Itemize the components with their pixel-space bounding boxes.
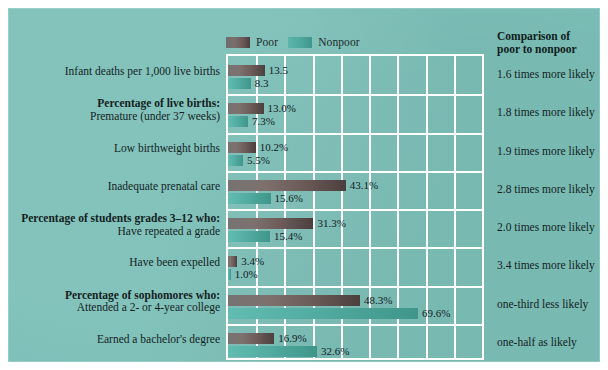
bar-nonpoor [228,78,251,89]
comparison-value: 2.8 times more likely [497,183,608,195]
bar-value-label: 8.3 [255,78,269,89]
bar-poor [228,218,313,229]
bar-nonpoor [228,346,317,357]
category-label-header: Percentage of sophomores who: [8,289,220,302]
category-label: Percentage of sophomores who:Attended a … [8,289,220,314]
legend-label-poor: Poor [256,36,278,48]
category-label: Percentage of students grades 3–12 who:H… [8,212,220,237]
category-label: Earned a bachelor's degree [8,333,220,346]
category-label: Have been expelled [8,256,220,269]
comparison-column: 1.6 times more likely1.8 times more like… [497,54,608,360]
bar-value-label: 7.3% [252,116,275,127]
bar-value-label: 3.4% [241,256,264,267]
category-label-sub: Attended a 2- or 4-year college [8,301,220,314]
comparison-value: 1.8 times more likely [497,106,608,118]
category-label-header: Percentage of live births: [8,97,220,110]
bar-value-label: 31.3% [317,218,345,229]
legend-swatch-poor [226,37,250,48]
bar-nonpoor [228,269,231,280]
bar-poor [228,256,237,267]
category-label: Inadequate prenatal care [8,180,220,193]
category-label: Infant deaths per 1,000 live births [8,65,220,78]
category-label-sub: Have repeated a grade [8,225,220,238]
bar-value-label: 15.6% [275,193,303,204]
bar-nonpoor [228,155,243,166]
bar-poor [228,103,264,114]
comparison-title-line-1: Comparison of [497,30,570,42]
chart-panel: Poor Nonpoor Infant deaths per 1,000 liv… [8,8,600,362]
legend-item-nonpoor: Nonpoor [288,36,360,48]
bar-nonpoor [228,193,271,204]
comparison-value: 1.9 times more likely [497,145,608,157]
bar-value-label: 43.1% [350,180,378,191]
category-axis-labels: Infant deaths per 1,000 live birthsPerce… [8,54,220,360]
bar-poor [228,142,256,153]
category-label-sub: Have been expelled [8,256,220,269]
category-label-sub: Low birthweight births [8,142,220,155]
bar-poor [228,333,274,344]
bar-value-label: 48.3% [364,295,392,306]
category-label-sub: Infant deaths per 1,000 live births [8,65,220,78]
bar-series-container: 13.513.0%10.2%43.1%31.3%3.4%48.3%16.9%8.… [228,56,482,358]
bar-poor [228,65,265,76]
plot-area: 13.513.0%10.2%43.1%31.3%3.4%48.3%16.9%8.… [226,54,484,360]
category-label-sub: Inadequate prenatal care [8,180,220,193]
legend-item-poor: Poor [226,36,278,48]
bar-value-label: 5.5% [247,155,270,166]
category-label: Percentage of live births:Premature (und… [8,97,220,122]
category-label-header: Percentage of students grades 3–12 who: [8,212,220,225]
comparison-value: 2.0 times more likely [497,221,608,233]
comparison-column-title: Comparison of poor to nonpoor [497,30,608,56]
bar-value-label: 1.0% [235,269,258,280]
bar-value-label: 13.5 [269,65,288,76]
bar-value-label: 16.9% [278,333,306,344]
category-label-sub: Premature (under 37 weeks) [8,110,220,123]
bar-nonpoor [228,116,248,127]
bar-value-label: 32.6% [321,346,349,357]
bar-nonpoor [228,231,270,242]
bar-value-label: 10.2% [260,142,288,153]
category-label: Low birthweight births [8,142,220,155]
chart-legend: Poor Nonpoor [226,35,360,49]
bar-value-label: 13.0% [268,103,296,114]
bar-poor [228,295,360,306]
category-label-sub: Earned a bachelor's degree [8,333,220,346]
comparison-value: one-third less likely [497,298,608,310]
chart-figure: Poor Nonpoor Infant deaths per 1,000 liv… [0,0,608,370]
bar-nonpoor [228,308,418,319]
legend-swatch-nonpoor [288,37,312,48]
comparison-value: 1.6 times more likely [497,68,608,80]
comparison-value: one-half as likely [497,336,608,348]
bar-value-label: 15.4% [274,231,302,242]
comparison-value: 3.4 times more likely [497,259,608,271]
bar-value-label: 69.6% [422,308,450,319]
legend-label-nonpoor: Nonpoor [318,36,360,48]
bar-poor [228,180,346,191]
